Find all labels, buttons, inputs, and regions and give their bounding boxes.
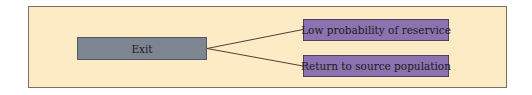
return-to-source-population-label: Return to source population [301,60,451,72]
return-to-source-population-node: Return to source population [303,55,449,77]
low-probability-reservice-label: Low probability of reservice [301,24,451,36]
exit-node-label: Exit [131,43,152,55]
exit-node: Exit [77,37,207,60]
low-probability-reservice-node: Low probability of reservice [303,19,449,41]
